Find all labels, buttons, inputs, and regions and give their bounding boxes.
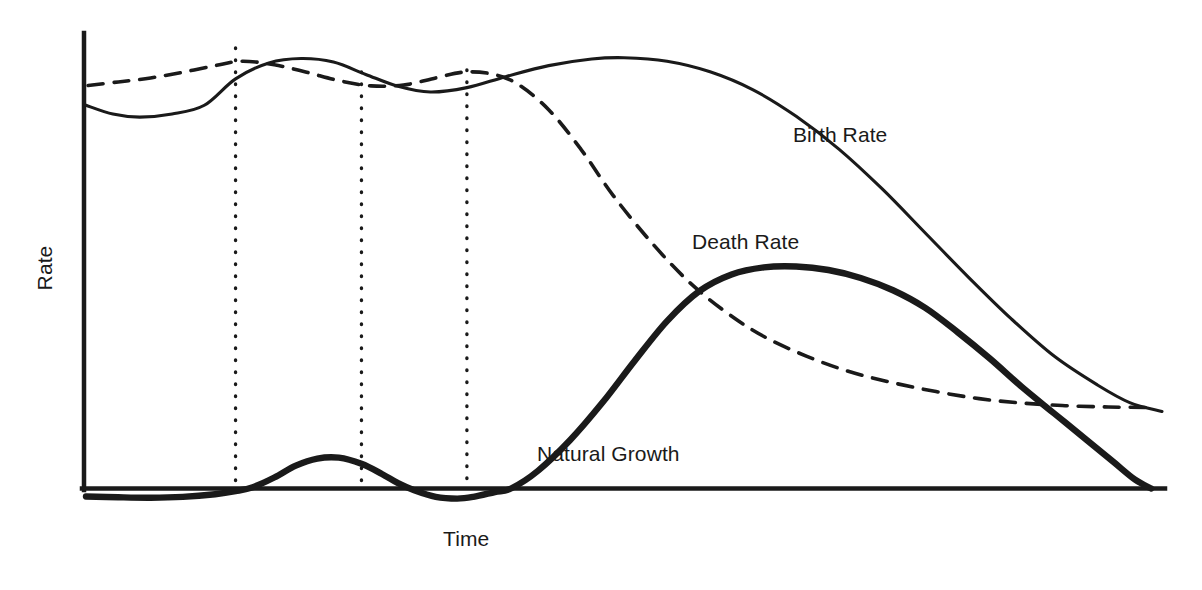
- y-axis-label: Rate: [34, 246, 55, 291]
- series-label-birth-rate: Birth Rate: [793, 124, 887, 145]
- series-label-natural-growth: Natural Growth: [537, 443, 680, 464]
- series-line-birth-rate: [86, 58, 1162, 412]
- series-group: [86, 58, 1162, 499]
- chart-canvas: [0, 0, 1202, 590]
- x-axis-label: Time: [443, 528, 489, 549]
- stage-divider-group: [236, 48, 467, 487]
- demographic-transition-figure: Rate Time Birth Rate Death Rate Natural …: [0, 0, 1202, 590]
- axes-group: [82, 33, 1165, 490]
- series-label-death-rate: Death Rate: [692, 231, 799, 252]
